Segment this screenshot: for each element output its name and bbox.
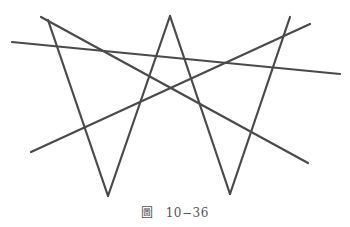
line-diagram [0,0,350,227]
segment-line-e [170,16,230,194]
figure-label: 圖 [141,206,154,220]
segment-line-c [48,20,108,196]
figure-caption: 圖10−36 [0,203,350,220]
figure-number: 10−36 [166,206,209,220]
segment-line-g [31,24,310,152]
segment-line-b [41,17,308,163]
segment-line-d [108,16,170,196]
segment-line-f [230,17,290,194]
